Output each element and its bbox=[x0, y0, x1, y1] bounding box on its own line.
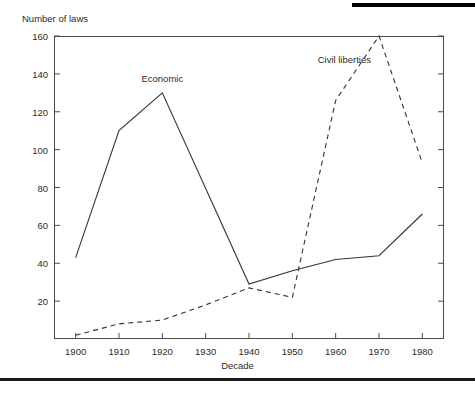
y-tick-label: 160 bbox=[8, 31, 48, 42]
page-bottom-rule bbox=[0, 378, 475, 381]
y-tick-label: 140 bbox=[8, 68, 48, 79]
plot-canvas bbox=[0, 0, 475, 395]
series-line-civil-liberties bbox=[76, 36, 423, 335]
x-tick-label: 1930 bbox=[183, 346, 229, 357]
x-tick-label: 1910 bbox=[96, 346, 142, 357]
x-axis-title: Decade bbox=[0, 360, 475, 371]
y-tick-marks bbox=[54, 36, 444, 301]
x-tick-label: 1980 bbox=[399, 346, 445, 357]
series-label-civil-liberties: Civil liberties bbox=[318, 53, 371, 64]
x-tick-label: 1970 bbox=[356, 346, 402, 357]
x-tick-label: 1960 bbox=[313, 346, 359, 357]
x-tick-label: 1920 bbox=[139, 346, 185, 357]
x-tick-marks bbox=[76, 333, 423, 339]
y-tick-label: 60 bbox=[8, 220, 48, 231]
y-tick-label: 20 bbox=[8, 296, 48, 307]
y-tick-label: 100 bbox=[8, 144, 48, 155]
x-tick-label: 1900 bbox=[53, 346, 99, 357]
series-paths bbox=[76, 36, 423, 335]
y-tick-label: 120 bbox=[8, 106, 48, 117]
x-tick-label: 1950 bbox=[269, 346, 315, 357]
y-tick-label: 40 bbox=[8, 258, 48, 269]
series-line-economic bbox=[76, 93, 423, 284]
series-label-economic: Economic bbox=[141, 72, 183, 83]
y-tick-label: 80 bbox=[8, 182, 48, 193]
chart-page: Number of laws 20406080100120140160 1900… bbox=[0, 0, 475, 395]
x-tick-label: 1940 bbox=[226, 346, 272, 357]
